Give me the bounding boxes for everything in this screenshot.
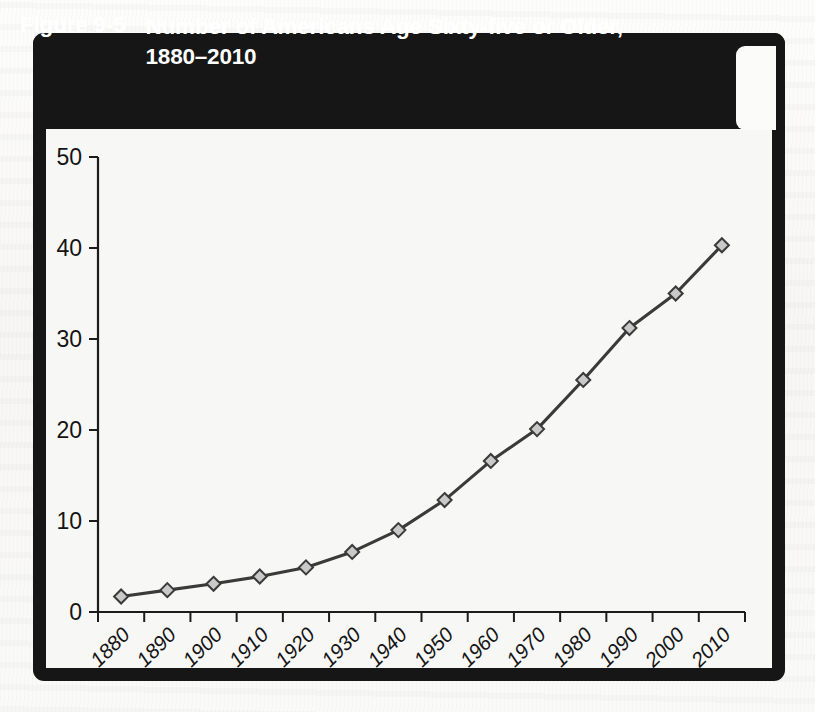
y-tick-labels: 01020304050: [56, 144, 82, 625]
y-tick-label: 50: [56, 144, 82, 170]
x-axis: [98, 612, 745, 622]
x-tick-label: 1900: [178, 622, 227, 668]
data-point-marker: [160, 583, 174, 597]
data-point-marker: [207, 577, 221, 591]
figure-title-line-1: Number of Americans Age Sixty-five or Ol…: [146, 14, 623, 39]
line-chart: 01020304050 1880189019001910192019301940…: [46, 129, 772, 668]
data-point-marker: [299, 560, 313, 574]
data-series: [121, 245, 722, 596]
data-point-marker: [114, 590, 128, 604]
y-tick-label: 0: [69, 599, 82, 625]
y-tick-label: 10: [56, 508, 82, 534]
figure-title: Number of Americans Age Sixty-five or Ol…: [146, 12, 623, 72]
data-point-marker: [253, 570, 267, 584]
x-tick-label: 1920: [270, 622, 319, 668]
x-tick-label: 1970: [501, 622, 550, 668]
figure-title-line-2: 1880–2010: [146, 44, 257, 69]
data-point-marker: [345, 545, 359, 559]
x-tick-label: 1980: [548, 622, 597, 668]
figure-header: Figure 9-5 Number of Americans Age Sixty…: [0, 0, 752, 96]
x-tick-labels: 1880189019001910192019301940195019601970…: [85, 622, 735, 668]
y-tick-label: 40: [56, 235, 82, 261]
x-tick-label: 2000: [639, 622, 689, 668]
data-markers: [114, 238, 729, 603]
figure-number: Figure 9-5: [20, 12, 146, 38]
x-tick-label: 1960: [455, 622, 504, 668]
x-tick-label: 1940: [363, 622, 412, 668]
x-tick-label: 1930: [316, 622, 365, 668]
y-tick-label: 20: [56, 417, 82, 443]
x-tick-label: 1880: [85, 622, 134, 668]
x-tick-label: 1910: [224, 622, 273, 668]
x-tick-label: 2010: [686, 622, 736, 668]
x-tick-label: 1950: [409, 622, 458, 668]
y-axis: [89, 157, 98, 612]
chart-plot-area: 01020304050 1880189019001910192019301940…: [46, 129, 772, 668]
x-tick-label: 1890: [132, 622, 181, 668]
y-tick-label: 30: [56, 326, 82, 352]
x-tick-label: 1990: [594, 622, 643, 668]
